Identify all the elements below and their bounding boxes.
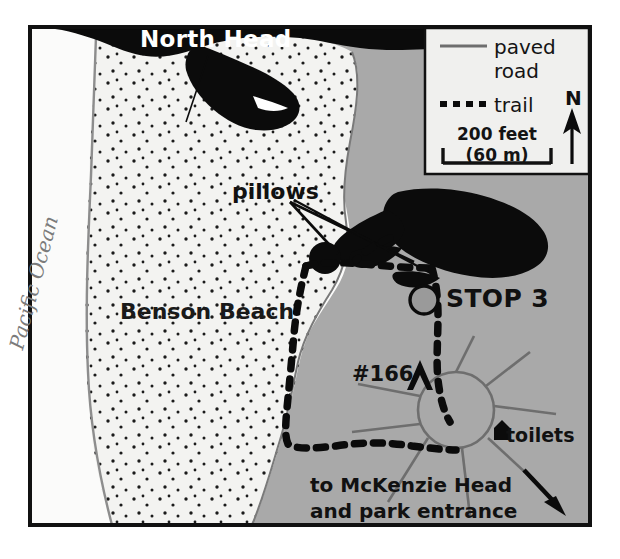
- label-pillows: pillows: [232, 180, 319, 204]
- label-benson-beach: Benson Beach: [120, 300, 294, 324]
- label-site-166: #166: [352, 363, 413, 386]
- legend-north-label: N: [565, 88, 582, 110]
- legend-trail-label: trail: [494, 95, 533, 117]
- legend-scale-label: 200 feet (60 m): [443, 124, 551, 167]
- label-stop3: STOP 3: [446, 285, 549, 312]
- legend-paved-road-label: paved road: [494, 35, 556, 83]
- label-north-head: North Head: [140, 27, 292, 52]
- label-toilets: toilets: [506, 425, 574, 446]
- pillow-outcrop-round: [309, 242, 341, 274]
- stop3-marker[interactable]: [410, 286, 438, 314]
- label-to-mckenzie-head: to McKenzie Head and park entrance: [310, 472, 517, 524]
- map-figure: North Head Pacific Ocean Benson Beach pi…: [0, 0, 620, 559]
